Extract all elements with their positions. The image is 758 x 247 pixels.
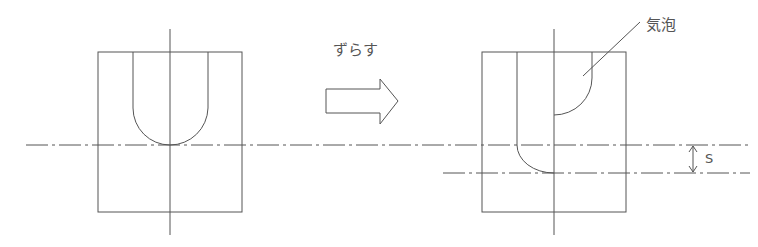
bubble-label: 気泡 bbox=[646, 13, 676, 34]
offset-dimension bbox=[689, 146, 697, 172]
bubble-leader-line bbox=[583, 22, 640, 76]
shift-arrow-icon bbox=[326, 79, 398, 124]
groove-left-half bbox=[517, 52, 554, 173]
action-label: ずらす bbox=[333, 38, 378, 59]
offset-label: S bbox=[705, 151, 713, 166]
groove-right-half bbox=[554, 52, 592, 115]
figure-after bbox=[443, 22, 750, 235]
diagram-canvas bbox=[0, 0, 758, 247]
figure-before bbox=[98, 29, 242, 235]
